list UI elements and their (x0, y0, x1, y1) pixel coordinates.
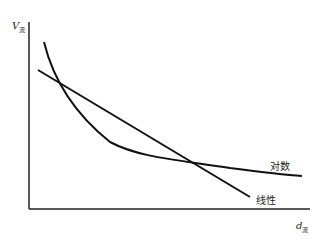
y-axis-label-sub: 流 (19, 26, 25, 33)
x-axis-label-sub: 流 (302, 226, 308, 233)
log-curve (44, 42, 302, 176)
linear-line (38, 70, 250, 197)
y-axis-label: V流 (12, 20, 25, 34)
chart-canvas (0, 0, 325, 239)
series-label-log: 对数 (270, 158, 290, 173)
x-axis-label: d流 (296, 220, 308, 234)
series-label-linear: 线性 (256, 192, 276, 207)
